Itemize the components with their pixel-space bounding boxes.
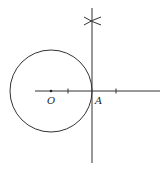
center-point xyxy=(50,90,53,93)
label-o: O xyxy=(47,95,55,106)
geometry-diagram: O A xyxy=(0,0,168,173)
label-a: A xyxy=(94,95,102,106)
